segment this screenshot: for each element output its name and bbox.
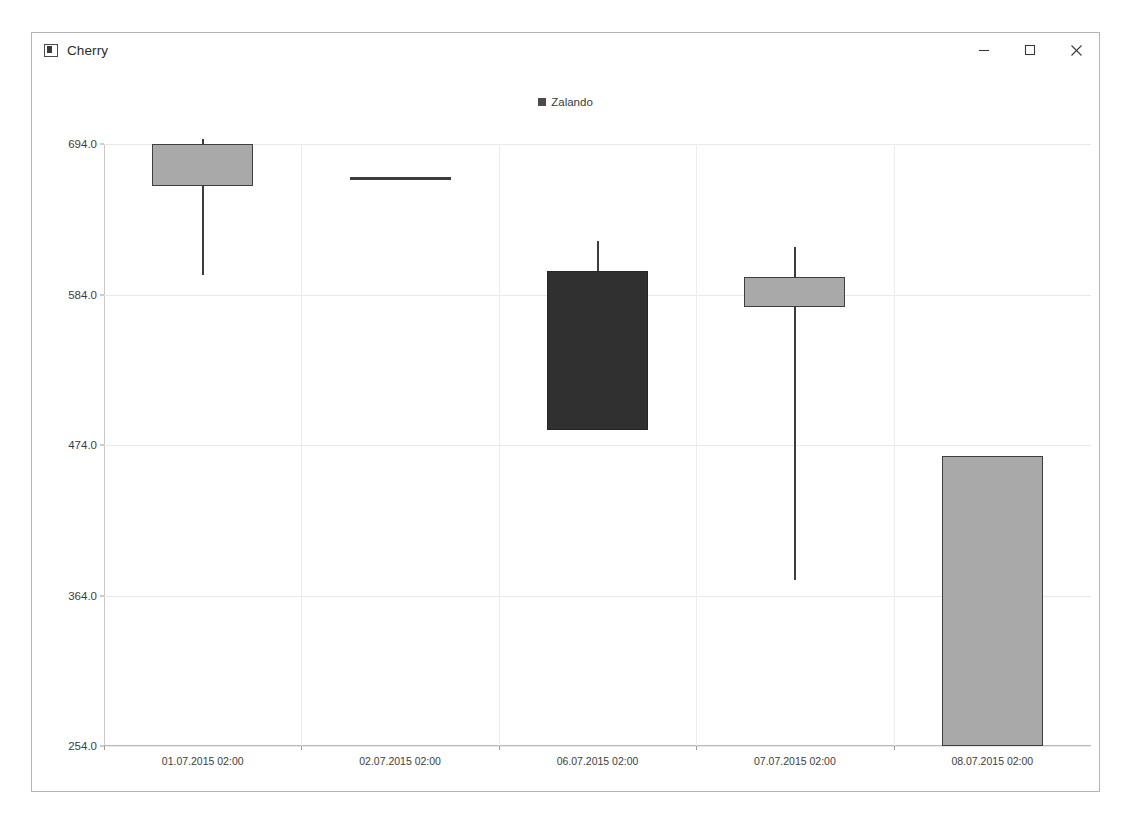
maximize-button[interactable] bbox=[1007, 33, 1053, 67]
legend-entry-zalando: Zalando bbox=[538, 96, 593, 108]
minimize-button[interactable] bbox=[961, 33, 1007, 67]
application-icon bbox=[44, 44, 58, 57]
candlestick-body bbox=[744, 277, 845, 307]
x-gridline bbox=[696, 144, 697, 746]
y-axis-label: 364.0 bbox=[68, 590, 97, 602]
y-axis-tick bbox=[100, 445, 104, 446]
x-axis-label: 01.07.2015 02:00 bbox=[162, 755, 244, 767]
y-axis-label: 254.0 bbox=[68, 740, 97, 752]
x-gridline bbox=[301, 144, 302, 746]
x-axis-tick bbox=[104, 746, 105, 750]
x-axis-label: 02.07.2015 02:00 bbox=[359, 755, 441, 767]
chart-legend: Zalando bbox=[32, 96, 1099, 108]
x-axis-label: 06.07.2015 02:00 bbox=[557, 755, 639, 767]
x-gridline bbox=[499, 144, 500, 746]
legend-swatch-icon bbox=[538, 98, 546, 106]
candlestick[interactable] bbox=[547, 144, 648, 746]
x-axis-label: 07.07.2015 02:00 bbox=[754, 755, 836, 767]
x-axis-tick bbox=[301, 746, 302, 750]
y-axis-tick bbox=[100, 595, 104, 596]
chart-canvas: Zalando 694.0584.0474.0364.0254.001.07.2… bbox=[32, 67, 1099, 792]
candlestick-body bbox=[942, 456, 1043, 746]
y-axis-tick bbox=[100, 144, 104, 145]
x-axis-tick bbox=[696, 746, 697, 750]
title-bar[interactable]: Cherry bbox=[32, 33, 1099, 67]
y-axis-label: 694.0 bbox=[68, 138, 97, 150]
candlestick-body bbox=[547, 271, 648, 430]
candlestick-body bbox=[152, 144, 253, 186]
window-controls bbox=[961, 33, 1099, 67]
candlestick[interactable] bbox=[744, 144, 845, 746]
plot-area: 694.0584.0474.0364.0254.001.07.2015 02:0… bbox=[104, 144, 1091, 746]
x-axis-tick bbox=[499, 746, 500, 750]
x-axis-tick bbox=[894, 746, 895, 750]
candlestick[interactable] bbox=[942, 144, 1043, 746]
candlestick[interactable] bbox=[152, 144, 253, 746]
close-button[interactable] bbox=[1053, 33, 1099, 67]
candlestick[interactable] bbox=[350, 144, 451, 746]
x-gridline bbox=[894, 144, 895, 746]
y-axis-label: 474.0 bbox=[68, 439, 97, 451]
candlestick-body bbox=[350, 177, 451, 180]
window-title: Cherry bbox=[67, 43, 108, 58]
y-gridline bbox=[104, 746, 1091, 747]
legend-label: Zalando bbox=[551, 96, 593, 108]
y-axis-label: 584.0 bbox=[68, 289, 97, 301]
application-window: Cherry Zalando 694.0584.0474.0364.0254 bbox=[31, 32, 1100, 792]
y-axis-tick bbox=[100, 294, 104, 295]
x-axis-label: 08.07.2015 02:00 bbox=[951, 755, 1033, 767]
